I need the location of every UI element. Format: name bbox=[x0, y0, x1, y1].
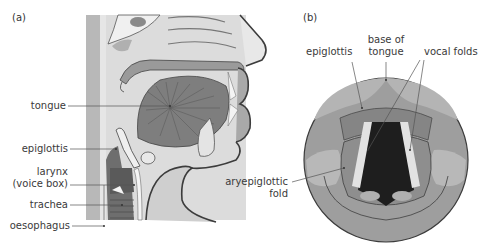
label-larynx-line1: larynx bbox=[12, 166, 68, 178]
label-epiglottis-b: epiglottis bbox=[306, 46, 352, 58]
label-base-of-tongue-line1: base of bbox=[364, 34, 408, 46]
anatomy-illustration bbox=[0, 0, 484, 247]
label-tongue: tongue bbox=[31, 100, 66, 112]
label-aryepiglottic-fold: aryepiglottic fold bbox=[225, 176, 288, 200]
label-epiglottis-a: epiglottis bbox=[22, 143, 68, 155]
laryngoscopic-view bbox=[304, 78, 468, 242]
label-vocal-folds: vocal folds bbox=[424, 46, 478, 58]
label-larynx: larynx (voice box) bbox=[12, 166, 68, 190]
label-oesophagus: oesophagus bbox=[10, 220, 70, 232]
label-base-of-tongue-line2: tongue bbox=[364, 46, 408, 58]
label-aryepiglottic-line1: aryepiglottic bbox=[225, 176, 288, 188]
label-trachea: trachea bbox=[30, 199, 68, 211]
label-larynx-line2: (voice box) bbox=[12, 178, 68, 190]
label-aryepiglottic-line2: fold bbox=[225, 188, 288, 200]
label-base-of-tongue: base of tongue bbox=[364, 34, 408, 58]
